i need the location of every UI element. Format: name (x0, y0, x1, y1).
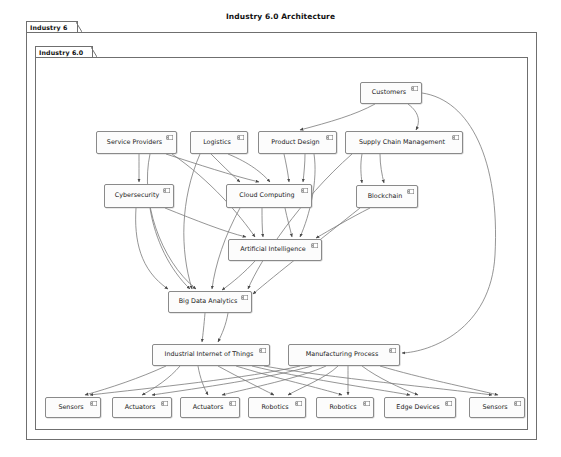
uml-component-icon (407, 189, 414, 194)
component-cyber[interactable]: Cybersecurity (104, 184, 174, 208)
component-label-edge: Edge Devices (393, 404, 446, 411)
component-label-service: Service Providers (104, 139, 169, 146)
component-label-actuators1: Actuators (122, 404, 163, 411)
component-label-customers: Customers (369, 89, 413, 96)
component-robotics1[interactable]: Robotics (248, 397, 306, 418)
edge-service-to-bigdata (147, 154, 196, 289)
edge-cyber-to-bigdata (136, 208, 168, 289)
edge-mfg-to-sensors1 (90, 366, 300, 395)
component-ai[interactable]: Artificial Intelligence (228, 239, 322, 261)
component-sensors1[interactable]: Sensors (45, 397, 101, 418)
edge-cyber-to-ai (165, 208, 246, 237)
edge-customers-to-design (300, 104, 375, 130)
diagram-canvas: Industry 6.0 Architecture Industry 6Indu… (0, 0, 561, 457)
component-label-iiot: Industrial Internet of Things (162, 351, 261, 358)
uml-component-icon (411, 86, 418, 91)
edge-design-to-cloud (284, 154, 289, 182)
component-mfg[interactable]: Manufacturing Process (288, 344, 400, 366)
edge-supply-to-blockchain (380, 154, 384, 183)
component-label-supply: Supply Chain Management (356, 139, 452, 146)
edge-ai-to-bigdata (222, 261, 255, 290)
uml-component-icon (445, 401, 452, 406)
edge-iiot-to-sensors2 (264, 366, 492, 395)
uml-component-icon (259, 348, 266, 353)
edge-cloud-to-ai (285, 208, 292, 237)
uml-component-icon (301, 188, 308, 193)
uml-component-icon (295, 401, 302, 406)
edge-mfg-to-sensors2 (380, 366, 498, 395)
component-iiot[interactable]: Industrial Internet of Things (152, 344, 270, 366)
component-label-bigdata: Big Data Analytics (176, 298, 245, 305)
edge-logistics-to-cloud (228, 154, 270, 182)
component-design[interactable]: Product Design (258, 131, 337, 154)
uml-component-icon (452, 135, 459, 140)
uml-component-icon (163, 188, 170, 193)
component-label-cyber: Cybersecurity (112, 192, 166, 199)
edge-customers-to-supply (408, 104, 418, 130)
component-label-robotics1: Robotics (258, 404, 295, 411)
edge-iiot-to-actuators2 (198, 366, 208, 395)
uml-component-icon (237, 135, 244, 140)
uml-component-icon (389, 348, 396, 353)
edge-iiot-to-actuators1 (142, 366, 180, 395)
component-actuators2[interactable]: Actuators (180, 397, 240, 418)
uml-component-icon (166, 135, 173, 140)
component-customers[interactable]: Customers (360, 82, 422, 104)
uml-component-icon (90, 401, 97, 406)
component-service[interactable]: Service Providers (96, 131, 177, 154)
edge-bigdata-to-iiot (218, 313, 228, 342)
component-label-blockchain: Blockchain (365, 193, 410, 200)
edge-logistics-to-bigdata (184, 154, 200, 289)
uml-component-icon (326, 135, 333, 140)
component-sensors2[interactable]: Sensors (469, 397, 525, 418)
uml-component-icon (363, 401, 370, 406)
connector-layer (0, 0, 561, 457)
edge-design-to-cloud (303, 154, 305, 182)
component-label-cloud: Cloud Computing (236, 192, 301, 199)
component-label-design: Product Design (268, 139, 326, 146)
uml-component-icon (514, 401, 521, 406)
component-bigdata[interactable]: Big Data Analytics (168, 291, 252, 313)
edge-service-to-cloud (166, 154, 259, 182)
component-logistics[interactable]: Logistics (190, 131, 248, 154)
uml-component-icon (229, 401, 236, 406)
component-robotics2[interactable]: Robotics (316, 397, 374, 418)
component-label-actuators2: Actuators (190, 404, 231, 411)
component-label-ai: Artificial Intelligence (237, 246, 313, 253)
edge-logistics-to-cloud (211, 154, 240, 182)
component-actuators1[interactable]: Actuators (112, 397, 172, 418)
component-label-mfg: Manufacturing Process (303, 351, 386, 358)
edge-cloud-to-ai (262, 208, 263, 237)
uml-component-icon (161, 401, 168, 406)
component-label-sensors2: Sensors (479, 404, 514, 411)
component-label-robotics2: Robotics (326, 404, 363, 411)
edge-supply-to-bigdata (248, 154, 352, 289)
component-cloud[interactable]: Cloud Computing (226, 184, 312, 208)
component-edge[interactable]: Edge Devices (384, 397, 456, 418)
edge-supply-to-blockchain (361, 154, 362, 183)
component-supply[interactable]: Supply Chain Management (345, 131, 463, 154)
component-label-logistics: Logistics (200, 139, 238, 146)
component-label-sensors1: Sensors (55, 404, 90, 411)
uml-component-icon (241, 295, 248, 300)
edge-bigdata-to-iiot (202, 313, 205, 342)
component-blockchain[interactable]: Blockchain (356, 185, 418, 208)
edge-mfg-to-actuators2 (222, 366, 326, 395)
edge-blockchain-to-ai (316, 208, 370, 238)
uml-component-icon (311, 243, 318, 248)
